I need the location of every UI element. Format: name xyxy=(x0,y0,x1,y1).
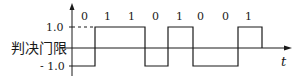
time-axis-label: t xyxy=(281,54,287,69)
threshold-label: 判决门限 xyxy=(11,40,67,56)
y-axis-arrow-icon xyxy=(70,3,75,10)
waveform-diagram: 1.0 - 1.0 判决门限 t 0 1 1 0 1 0 0 1 xyxy=(0,0,296,80)
y-high-label: 1.0 xyxy=(46,21,64,34)
bit-label: 0 xyxy=(81,10,88,23)
bit-label: 1 xyxy=(104,10,111,23)
y-low-label: - 1.0 xyxy=(40,60,65,73)
bit-label: 1 xyxy=(245,10,252,23)
bit-label: 1 xyxy=(176,10,183,23)
bit-label: 0 xyxy=(222,10,229,23)
bit-label: 0 xyxy=(197,10,204,23)
bipolar-waveform xyxy=(72,27,262,66)
bit-label: 1 xyxy=(128,10,135,23)
time-axis-arrow-icon xyxy=(284,46,292,51)
bit-label: 0 xyxy=(152,10,159,23)
